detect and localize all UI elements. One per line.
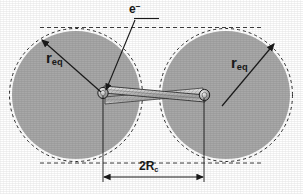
contact-diameter-label: 2Rc bbox=[139, 160, 159, 173]
electron-base: e bbox=[129, 2, 136, 16]
contact-diameter-prefix: 2 bbox=[139, 159, 146, 173]
electron-cap-right bbox=[199, 89, 209, 100]
right-radius-subscript: eq bbox=[237, 62, 248, 72]
left-radius-subscript: eq bbox=[52, 57, 63, 67]
electron-superscript: − bbox=[136, 1, 141, 11]
right-radius-label: req bbox=[231, 55, 248, 73]
electron-label: e− bbox=[129, 2, 141, 15]
contact-diameter-subscript: c bbox=[154, 165, 158, 174]
left-grain-sphere bbox=[12, 31, 140, 159]
left-radius-label: req bbox=[46, 50, 63, 68]
